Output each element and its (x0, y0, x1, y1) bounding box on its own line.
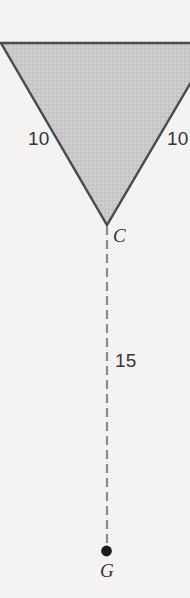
figure-canvas (0, 0, 190, 598)
vertex-g-label: G (100, 561, 114, 580)
geometry-figure: 10 10 15 C G (0, 0, 190, 598)
drop-length-label: 15 (115, 351, 137, 370)
side-length-left-label: 10 (28, 129, 50, 148)
vertex-c-label: C (113, 226, 126, 245)
point-g-dot (101, 546, 112, 557)
side-length-right-label: 10 (167, 129, 189, 148)
